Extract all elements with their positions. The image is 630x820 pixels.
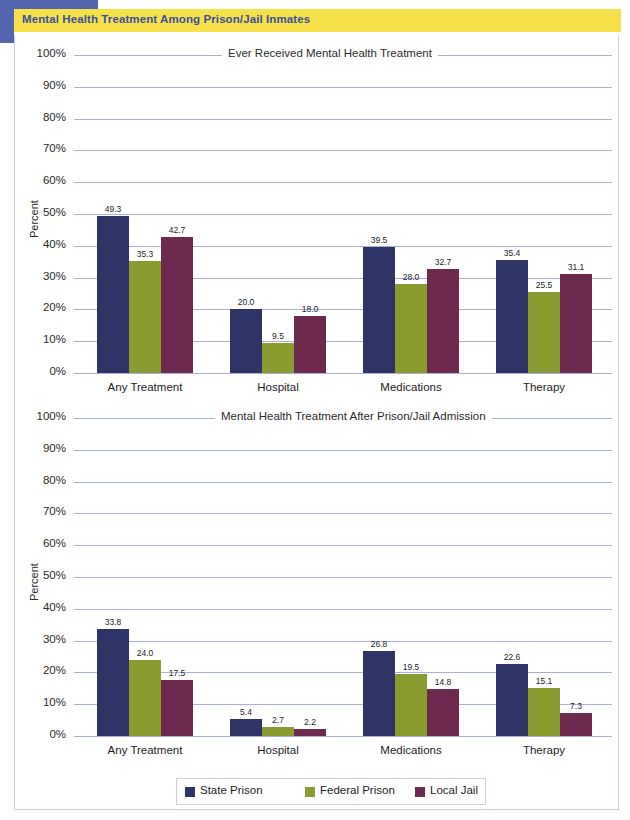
gridline: [74, 214, 612, 215]
legend-label: State Prison: [200, 784, 263, 796]
bar-value-label: 17.5: [153, 668, 201, 678]
gridline: [74, 150, 612, 151]
bar-value-label: 32.7: [419, 257, 467, 267]
x-axis-category-label: Therapy: [461, 381, 627, 393]
chart-title: Mental Health Treatment After Prison/Jai…: [215, 410, 492, 422]
bar: [161, 680, 193, 736]
y-axis-tick-label: 90%: [10, 79, 66, 91]
y-axis-tick-label: 10%: [10, 333, 66, 345]
y-axis-tick-label: 0%: [10, 365, 66, 377]
x-axis-baseline: [74, 373, 612, 374]
y-axis-tick-label: 20%: [10, 301, 66, 313]
x-axis-baseline: [74, 736, 612, 737]
bar-value-label: 2.2: [286, 717, 334, 727]
gridline: [74, 545, 612, 546]
y-axis-tick-label: 60%: [10, 537, 66, 549]
bar-value-label: 35.4: [488, 248, 536, 258]
bar-value-label: 24.0: [121, 648, 169, 658]
bar: [161, 237, 193, 373]
chart-legend: State PrisonFederal PrisonLocal Jail: [176, 778, 486, 805]
bar-value-label: 18.0: [286, 304, 334, 314]
bar: [560, 274, 592, 373]
y-axis-tick-label: 80%: [10, 111, 66, 123]
bar: [528, 688, 560, 736]
bar: [294, 316, 326, 373]
y-axis-tick-label: 80%: [10, 474, 66, 486]
y-axis-tick-label: 70%: [10, 142, 66, 154]
page-tab-marker: [14, 0, 98, 9]
bar-value-label: 7.3: [552, 701, 600, 711]
bar-value-label: 31.1: [552, 262, 600, 272]
bar-value-label: 19.5: [387, 662, 435, 672]
y-axis-tick-label: 40%: [10, 238, 66, 250]
bar-value-label: 49.3: [89, 204, 137, 214]
bar: [129, 261, 161, 373]
bar-value-label: 26.8: [355, 639, 403, 649]
bar-value-label: 15.1: [520, 676, 568, 686]
gridline: [74, 87, 612, 88]
bar: [262, 343, 294, 373]
y-axis-tick-label: 20%: [10, 664, 66, 676]
bar-value-label: 20.0: [222, 297, 270, 307]
gridline: [74, 482, 612, 483]
banner: Mental Health Treatment Among Prison/Jai…: [14, 9, 621, 32]
y-axis-title: Percent: [28, 563, 40, 601]
gridline: [74, 182, 612, 183]
legend-swatch-icon: [185, 787, 195, 797]
bar: [560, 713, 592, 736]
bar-value-label: 14.8: [419, 677, 467, 687]
chart-title: Ever Received Mental Health Treatment: [222, 47, 438, 59]
bar-value-label: 42.7: [153, 225, 201, 235]
bar: [528, 292, 560, 373]
bar: [97, 216, 129, 373]
y-axis-tick-label: 10%: [10, 696, 66, 708]
gridline: [74, 609, 612, 610]
legend-label: Local Jail: [430, 784, 478, 796]
bar: [427, 689, 459, 736]
bar: [427, 269, 459, 373]
bar: [262, 727, 294, 736]
gridline: [74, 246, 612, 247]
bar: [97, 629, 129, 736]
gridline: [74, 450, 612, 451]
y-axis-tick-label: 100%: [10, 47, 66, 59]
bar-value-label: 33.8: [89, 617, 137, 627]
gridline: [74, 119, 612, 120]
y-axis-tick-label: 40%: [10, 601, 66, 613]
bar: [363, 247, 395, 373]
y-axis-tick-label: 30%: [10, 270, 66, 282]
y-axis-tick-label: 90%: [10, 442, 66, 454]
y-axis-tick-label: 0%: [10, 728, 66, 740]
y-axis-tick-label: 30%: [10, 633, 66, 645]
left-accent-strip: [0, 0, 14, 43]
legend-swatch-icon: [415, 787, 425, 797]
bar: [294, 729, 326, 736]
gridline: [74, 577, 612, 578]
gridline: [74, 641, 612, 642]
y-axis-tick-label: 70%: [10, 505, 66, 517]
bar-value-label: 39.5: [355, 235, 403, 245]
bar: [496, 664, 528, 736]
bar: [395, 284, 427, 373]
y-axis-tick-label: 100%: [10, 410, 66, 422]
bar: [230, 309, 262, 373]
x-axis-category-label: Therapy: [461, 744, 627, 756]
gridline: [74, 513, 612, 514]
legend-label: Federal Prison: [320, 784, 395, 796]
bar: [496, 260, 528, 373]
y-axis-tick-label: 60%: [10, 174, 66, 186]
page-title: Mental Health Treatment Among Prison/Jai…: [22, 13, 310, 25]
legend-swatch-icon: [305, 787, 315, 797]
bar-value-label: 22.6: [488, 652, 536, 662]
y-axis-title: Percent: [28, 200, 40, 238]
